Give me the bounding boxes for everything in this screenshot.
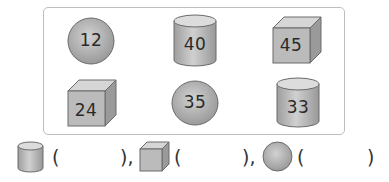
- sphere-35: 35: [171, 80, 219, 126]
- open-paren: (: [52, 146, 59, 168]
- open-paren: (: [174, 146, 181, 168]
- shape-value: 35: [171, 92, 219, 112]
- close-paren: ): [367, 146, 374, 168]
- sphere-icon: [262, 141, 293, 172]
- shape-value: 40: [173, 34, 217, 54]
- sphere-12: 12: [67, 17, 115, 65]
- answer-sphere: [262, 141, 293, 172]
- cube-45: 45: [272, 16, 322, 64]
- cylinder-40: 40: [173, 14, 217, 68]
- cylinder-33: 33: [276, 77, 320, 129]
- cube-icon: [139, 141, 170, 172]
- answer-cylinder: [17, 141, 44, 173]
- answer-blank-cylinder[interactable]: [60, 146, 120, 168]
- shape-value: 12: [67, 30, 115, 50]
- shape-value: 24: [67, 100, 105, 120]
- close-paren: ),: [120, 146, 133, 168]
- answer-cube: [139, 141, 170, 172]
- cube-24: 24: [67, 79, 117, 127]
- answer-blank-sphere[interactable]: [305, 146, 365, 168]
- shape-value: 45: [272, 35, 310, 55]
- open-paren: (: [297, 146, 304, 168]
- shape-value: 33: [276, 97, 320, 117]
- cylinder-icon: [17, 141, 44, 173]
- close-paren: ),: [242, 146, 255, 168]
- answer-blank-cube[interactable]: [182, 146, 242, 168]
